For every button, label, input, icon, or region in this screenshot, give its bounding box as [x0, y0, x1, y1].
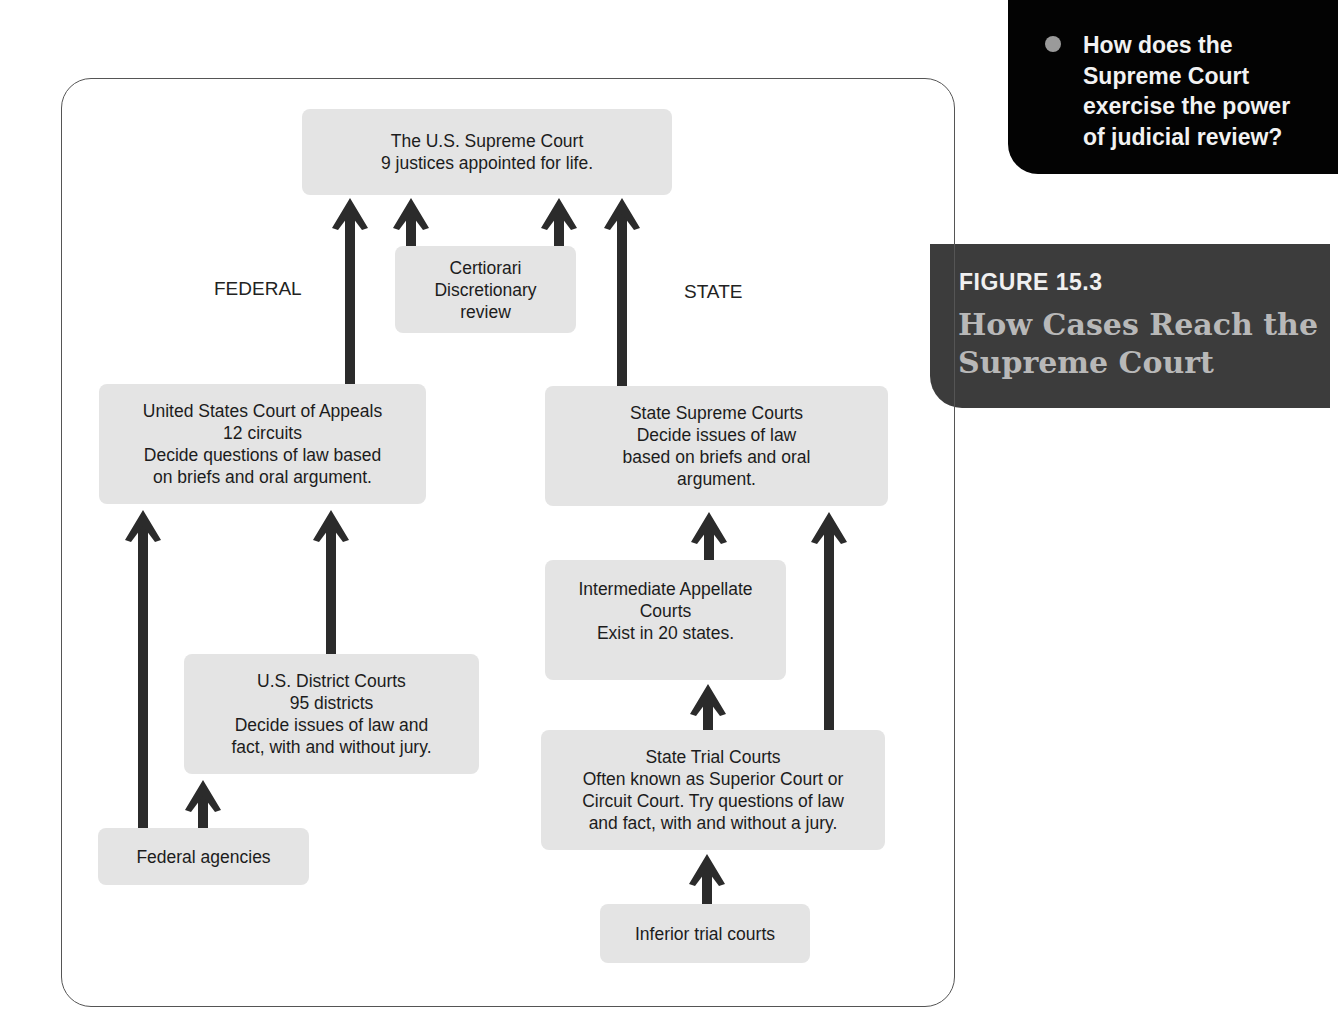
node-court-of-appeals: United States Court of Appeals 12 circui…: [99, 384, 426, 504]
node-certiorari: Certiorari Discretionary review: [395, 246, 576, 333]
node-state-trial: State Trial Courts Often known as Superi…: [541, 730, 885, 850]
node-federal-agencies-text: Federal agencies: [136, 846, 270, 868]
federal-label: FEDERAL: [214, 278, 302, 300]
node-court-of-appeals-text: United States Court of Appeals 12 circui…: [143, 400, 382, 488]
node-state-supreme-text: State Supreme Courts Decide issues of la…: [623, 402, 811, 490]
node-inferior-trial: Inferior trial courts: [600, 904, 810, 963]
node-federal-agencies: Federal agencies: [98, 828, 309, 885]
node-supreme-court-text: The U.S. Supreme Court 9 justices appoin…: [381, 130, 593, 174]
node-district-courts: U.S. District Courts 95 districts Decide…: [184, 654, 479, 774]
node-state-trial-text: State Trial Courts Often known as Superi…: [582, 746, 844, 834]
node-state-supreme: State Supreme Courts Decide issues of la…: [545, 386, 888, 506]
node-intermediate-appellate: Intermediate Appellate Courts Exist in 2…: [545, 560, 786, 680]
node-supreme-court: The U.S. Supreme Court 9 justices appoin…: [302, 109, 672, 195]
node-district-courts-text: U.S. District Courts 95 districts Decide…: [231, 670, 431, 758]
node-inferior-trial-text: Inferior trial courts: [635, 923, 775, 945]
state-label: STATE: [684, 281, 742, 303]
node-intermediate-appellate-text: Intermediate Appellate Courts Exist in 2…: [578, 578, 752, 644]
node-certiorari-text: Certiorari Discretionary review: [434, 257, 536, 323]
